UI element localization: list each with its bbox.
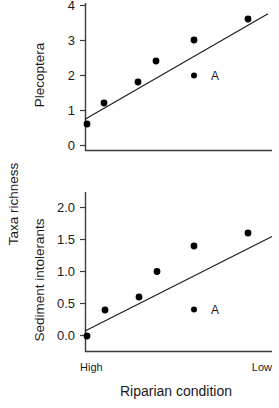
bottom-data-point xyxy=(245,230,252,237)
top-outlier-label-a: A xyxy=(211,69,219,83)
top-data-point xyxy=(191,37,198,44)
shared-y-axis-label: Taxa richness xyxy=(6,162,21,245)
top-data-point xyxy=(84,121,91,128)
bottom-panel-axes xyxy=(86,192,273,352)
bottom-data-point xyxy=(191,243,198,250)
panel-sediment-intolerants: Sediment intolerants 2.0 1.5 1.0 0.5 0.0 xyxy=(32,192,272,352)
top-outlier-point-a xyxy=(191,73,197,79)
bottom-panel-trend-line xyxy=(85,237,272,332)
top-data-point xyxy=(245,16,252,23)
x-axis-category-low: Low xyxy=(252,361,272,373)
top-panel-axes xyxy=(86,3,273,151)
top-panel-trend-line xyxy=(85,14,268,119)
bottom-outlier-point-a xyxy=(191,307,197,313)
bottom-ytick-label-0-5: 0.5 xyxy=(57,296,75,311)
top-ytick-label-3: 3 xyxy=(68,33,75,48)
bottom-data-point xyxy=(102,307,109,314)
top-ytick-label-1: 1 xyxy=(68,103,75,118)
bottom-panel-y-axis-label: Sediment intolerants xyxy=(32,218,47,341)
bottom-ytick-label-1-0: 1.0 xyxy=(57,264,75,279)
bottom-data-point xyxy=(136,294,143,301)
figure-container: Taxa richness Plecoptera 4 3 2 1 0 xyxy=(0,0,279,408)
bottom-ytick-label-2-0: 2.0 xyxy=(57,200,75,215)
bottom-ytick-label-0-0: 0.0 xyxy=(57,328,75,343)
bottom-outlier-label-a: A xyxy=(211,303,219,317)
bottom-ytick-label-1-5: 1.5 xyxy=(57,232,75,247)
x-axis-title: Riparian condition xyxy=(120,383,232,399)
top-panel-y-axis-label: Plecoptera xyxy=(32,42,47,107)
panel-plecoptera: Plecoptera 4 3 2 1 0 xyxy=(32,0,272,153)
top-ytick-label-2: 2 xyxy=(68,68,75,83)
bottom-data-point xyxy=(84,333,91,340)
top-data-point xyxy=(135,79,142,86)
top-ytick-label-0: 0 xyxy=(68,138,75,153)
top-data-point xyxy=(101,100,108,107)
top-data-point xyxy=(153,58,160,65)
top-ytick-label-4: 4 xyxy=(68,0,75,13)
x-axis-category-high: High xyxy=(80,361,103,373)
two-panel-scatter-figure: Taxa richness Plecoptera 4 3 2 1 0 xyxy=(0,0,279,408)
bottom-data-point xyxy=(154,268,161,275)
